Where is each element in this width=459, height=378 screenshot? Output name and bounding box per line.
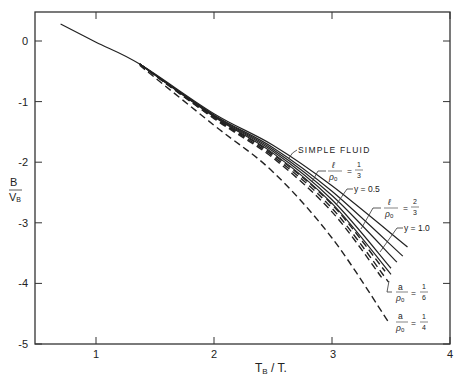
- x-tick-labels: 1 2 3 4: [93, 348, 453, 360]
- svg-text:1: 1: [357, 161, 361, 168]
- chart: 0 -1 -2 -3 -4 -5 1 2 3 4 TB / T. B VB SI…: [0, 0, 459, 378]
- ytick-4: -4: [18, 277, 28, 289]
- xtick-3: 3: [330, 348, 336, 360]
- xtick-2: 2: [211, 348, 217, 360]
- svg-text:ℓ: ℓ: [331, 160, 335, 170]
- plot-frame: [35, 12, 450, 344]
- svg-text:ρ0: ρ0: [384, 209, 394, 219]
- svg-text:3: 3: [413, 209, 417, 216]
- svg-text:=: =: [411, 318, 416, 328]
- svg-text:=: =: [411, 288, 416, 298]
- label-l-rho-1-3: ℓ ρ0 = 1 3: [312, 160, 363, 182]
- curve-simple-fluid: [61, 24, 408, 247]
- label-simple-fluid: SIMPLE FLUID: [289, 145, 371, 158]
- svg-text:4: 4: [422, 324, 426, 331]
- ytick-3: -3: [18, 217, 28, 229]
- y-tick-labels: 0 -1 -2 -3 -4 -5: [18, 35, 28, 350]
- svg-text:B: B: [10, 176, 17, 188]
- svg-text:ℓ: ℓ: [387, 197, 391, 207]
- svg-text:=: =: [403, 203, 408, 213]
- svg-text:=: =: [347, 166, 352, 176]
- y-axis-label: B VB: [9, 176, 22, 203]
- xtick-1: 1: [93, 348, 99, 360]
- xtick-4: 4: [447, 348, 453, 360]
- svg-text:SIMPLE FLUID: SIMPLE FLUID: [298, 145, 371, 155]
- axis-ticks: [35, 12, 450, 344]
- label-a-rho-1-6: a ρ0 = 1 6: [387, 281, 428, 303]
- svg-text:3: 3: [357, 172, 361, 179]
- svg-text:ρ0: ρ0: [395, 323, 405, 333]
- label-a-rho-1-4: a ρ0 = 1 4: [395, 311, 428, 333]
- curves: [61, 24, 408, 322]
- svg-text:VB: VB: [9, 191, 21, 203]
- svg-text:ρ0: ρ0: [328, 172, 338, 182]
- svg-text:ρ0: ρ0: [395, 293, 405, 303]
- svg-text:1: 1: [422, 283, 426, 290]
- ytick-0: 0: [22, 35, 28, 47]
- svg-text:y = 1.0: y = 1.0: [404, 223, 430, 233]
- svg-text:6: 6: [422, 294, 426, 301]
- svg-text:a: a: [398, 282, 403, 292]
- ytick-2: -2: [18, 156, 28, 168]
- curve-a-0-1-4: [140, 65, 389, 322]
- svg-text:y = 0.5: y = 0.5: [354, 184, 380, 194]
- x-axis-label: TB / T.: [255, 361, 287, 376]
- ytick-1: -1: [18, 96, 28, 108]
- ytick-5: -5: [18, 338, 28, 350]
- svg-text:a: a: [398, 311, 403, 321]
- curve-dashed-intermediate-2: [140, 64, 382, 277]
- svg-text:1: 1: [422, 313, 426, 320]
- svg-text:2: 2: [413, 198, 417, 205]
- label-y-1-0: y = 1.0: [380, 223, 430, 252]
